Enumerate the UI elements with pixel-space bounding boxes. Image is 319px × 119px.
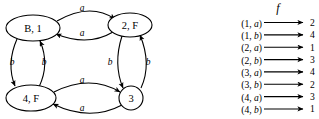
edge-label-top-outer: a [80,3,85,13]
edge-label-bottom-inner: a [80,75,85,85]
edge-2f-to-3-b [118,36,123,88]
mapping-row: (3, b)2 [241,79,315,91]
edge-4f-to-3-a [54,83,120,92]
mapping-row: (2, b)3 [241,54,315,66]
edge-label-bottom-outer: a [80,103,85,113]
mapping-row: (1, a)2 [241,17,315,29]
function-mapping-list: f (1, a)2(1, b)4(2, a)1(2, b)3(3, a)4(3,… [180,0,319,119]
diagram-canvas: B, 1 2, F 4, F 3 a a b b b b a a [0,0,180,119]
mapping-output: 2 [310,17,315,28]
edge-3-to-4f-a [53,104,122,113]
mapping-input: (2, a) [241,42,262,54]
mapping-output: 1 [310,42,315,53]
figure-root: B, 1 2, F 4, F 3 a a b b b b a a f [0,0,319,119]
mapping-output: 3 [310,91,315,102]
mapping-output: 2 [310,79,315,90]
mapping-output: 1 [310,103,315,114]
node-2f-label: 2, F [122,20,139,31]
mapping-row: (2, a)1 [241,42,315,54]
mapping-rows: (1, a)2(1, b)4(2, a)1(2, b)3(3, a)4(3, b… [241,17,315,115]
node-3-label: 3 [128,93,133,104]
mapping-output: 3 [310,54,315,65]
edge-b1-to-2f-a [57,11,115,21]
edge-label-left-inner: b [42,57,47,67]
state-transition-diagram: B, 1 2, F 4, F 3 a a b b b b a a [0,0,180,119]
mapping-input: (1, a) [241,17,262,29]
mapping-row: (3, a)4 [241,66,315,78]
edge-label-left-outer: b [10,57,15,67]
mapping-output: 4 [310,66,315,77]
mapping-input: (3, b) [241,79,262,91]
mapping-input: (2, b) [241,54,262,66]
edge-label-top-inner: a [80,28,85,38]
function-name-label: f [276,1,281,15]
edge-2f-to-b1-a [56,32,113,40]
mapping-row: (4, a)3 [241,91,315,103]
mapping-input: (4, b) [241,103,262,115]
node-4f-label: 4, F [23,93,40,104]
node-b1-label: B, 1 [24,23,42,34]
mapping-input: (3, a) [241,66,262,78]
function-canvas: f (1, a)2(1, b)4(2, a)1(2, b)3(3, a)4(3,… [180,0,319,119]
mapping-input: (4, a) [241,91,262,103]
mapping-input: (1, b) [241,29,262,41]
edge-label-right-outer: b [146,57,151,67]
edge-label-right-inner: b [108,57,113,67]
mapping-row: (1, b)4 [241,29,315,41]
mapping-row: (4, b)1 [241,103,315,115]
mapping-output: 4 [310,29,315,40]
